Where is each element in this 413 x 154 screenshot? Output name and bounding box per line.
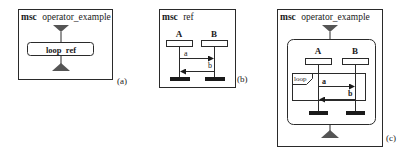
instance-name-a: A [315, 46, 322, 56]
loop-label: loop [294, 75, 307, 83]
message-label-b: b [348, 89, 353, 98]
instance-end-b [346, 111, 365, 115]
instance-name-a: A [176, 29, 183, 39]
reference-label: loop ref [46, 45, 76, 55]
msc-keyword: msc [21, 12, 37, 22]
svg-text:msc ref: msc ref [162, 12, 195, 22]
msc-keyword: msc [280, 12, 296, 22]
svg-text:msc operator_example: msc operator_example [280, 12, 370, 22]
instance-head-b [343, 59, 369, 65]
instance-end-b [205, 77, 225, 81]
instance-head-a [306, 59, 332, 65]
msc-name: operator_example [42, 12, 111, 22]
instance-end-a [170, 77, 190, 81]
svg-text:msc operator_example: msc operator_example [21, 12, 111, 22]
instance-end-a [309, 111, 328, 115]
panel-b: msc ref A B a b (b) [160, 10, 248, 88]
instance-name-b: B [352, 46, 358, 56]
instance-head-b [202, 41, 228, 47]
instance-head-a [167, 41, 193, 47]
msc-keyword: msc [162, 12, 178, 22]
instance-name-b: B [211, 29, 217, 39]
message-label-b: b [208, 61, 212, 70]
end-triangle-icon [321, 130, 339, 138]
caption-a: (a) [117, 76, 127, 86]
panel-c: msc operator_example A B loop a b (c) [278, 10, 397, 147]
panel-a: msc operator_example loop ref (a) [19, 10, 128, 87]
message-label-a: a [184, 49, 188, 58]
msc-name: ref [183, 12, 194, 22]
message-label-a: a [322, 77, 326, 86]
caption-c: (c) [386, 133, 396, 143]
msc-name: operator_example [301, 12, 370, 22]
msc-diagrams: msc operator_example loop ref (a) msc re… [0, 0, 413, 154]
start-triangle-icon [322, 25, 338, 32]
caption-b: (b) [237, 74, 248, 84]
start-triangle-icon [53, 25, 69, 32]
end-triangle-icon [52, 63, 70, 71]
